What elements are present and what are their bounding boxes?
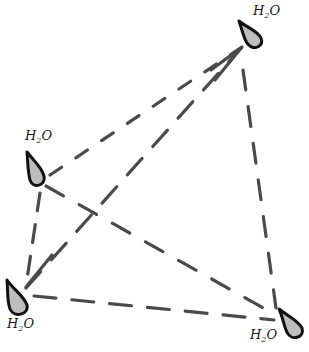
- background: [0, 0, 309, 352]
- label-text: H: [250, 327, 261, 342]
- label-text-end: O: [266, 327, 277, 342]
- label-text-end: O: [269, 3, 280, 18]
- node-label-bottom-left: H2O: [7, 317, 34, 333]
- water-molecule-diagram: [0, 0, 309, 352]
- node-label-mid-left: H2O: [25, 129, 52, 145]
- node-label-bottom-right: H2O: [250, 328, 277, 344]
- label-text: H: [7, 316, 18, 331]
- label-text-end: O: [41, 128, 52, 143]
- node-label-top-right: H2O: [253, 4, 280, 20]
- label-text: H: [253, 3, 264, 18]
- label-text: H: [25, 128, 36, 143]
- label-text-end: O: [23, 316, 34, 331]
